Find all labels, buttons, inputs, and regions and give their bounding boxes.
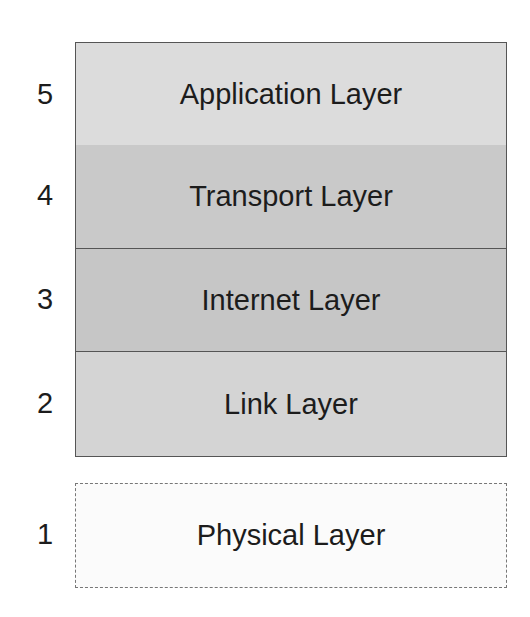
application-layer: Application Layer — [75, 42, 507, 146]
layer-number: 1 — [30, 518, 60, 551]
layer-number: 3 — [30, 283, 60, 316]
layer-label: Application Layer — [180, 78, 402, 111]
layer-label: Link Layer — [224, 388, 358, 421]
layer-number: 5 — [30, 78, 60, 111]
link-layer: Link Layer — [75, 351, 507, 457]
layer-label: Internet Layer — [202, 284, 381, 317]
layer-label: Transport Layer — [189, 180, 393, 213]
physical-layer: Physical Layer — [75, 483, 507, 588]
layer-number: 4 — [30, 179, 60, 212]
layer-label: Physical Layer — [197, 519, 386, 552]
layer-number: 2 — [30, 387, 60, 420]
internet-layer: Internet Layer — [75, 248, 507, 352]
transport-layer: Transport Layer — [75, 145, 507, 249]
